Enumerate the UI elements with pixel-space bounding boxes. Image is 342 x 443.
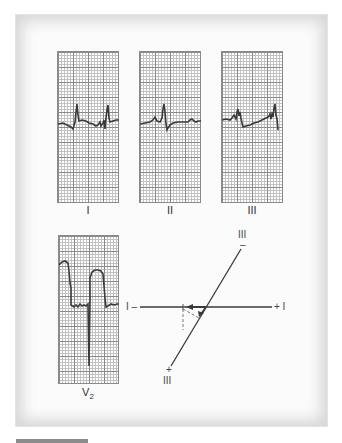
footer-bar xyxy=(16,439,88,443)
lead-iii-positive-label: III xyxy=(163,375,171,386)
lead-iii-positive-sign: + xyxy=(166,364,172,375)
lead-i-negative-label: I – xyxy=(126,301,137,312)
lead-i-positive-label: + I xyxy=(274,301,285,312)
mean-vector-arrowhead-icon xyxy=(186,304,193,310)
projection-dashed-diagonal xyxy=(183,309,199,318)
lead-iii-negative-sign: – xyxy=(240,239,246,250)
